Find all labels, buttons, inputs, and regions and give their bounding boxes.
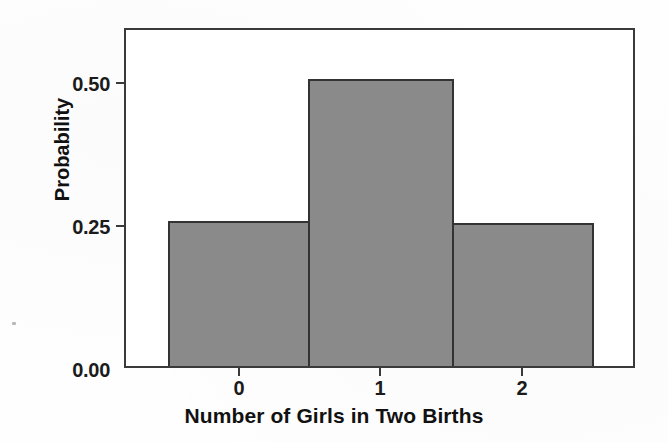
- bar-category-0[interactable]: [168, 221, 310, 366]
- bar-category-2[interactable]: [452, 223, 594, 366]
- x-axis-tick-label-1: 1: [350, 378, 410, 398]
- bar-category-1[interactable]: [308, 79, 454, 366]
- y-axis-tick-label-050: 0.50: [34, 74, 110, 94]
- y-axis-tick-label-025: 0.25: [34, 217, 110, 237]
- x-axis-tick-label-2: 2: [492, 378, 552, 398]
- x-axis-tick-mark-0: [238, 368, 240, 376]
- x-axis-tick-label-0: 0: [209, 378, 269, 398]
- x-axis-tick-mark-1: [379, 368, 381, 376]
- plot-area: [124, 28, 635, 368]
- x-axis-title: Number of Girls in Two Births: [0, 404, 668, 428]
- scan-artifact-speck: [12, 322, 16, 325]
- x-axis-tick-mark-2: [521, 368, 523, 376]
- y-axis-tick-label-000: 0.00: [34, 360, 110, 380]
- probability-histogram-figure: Probability 0.50 0.25 0.00 0 1 2 Number …: [0, 0, 668, 442]
- y-axis-title: Probability: [51, 80, 74, 220]
